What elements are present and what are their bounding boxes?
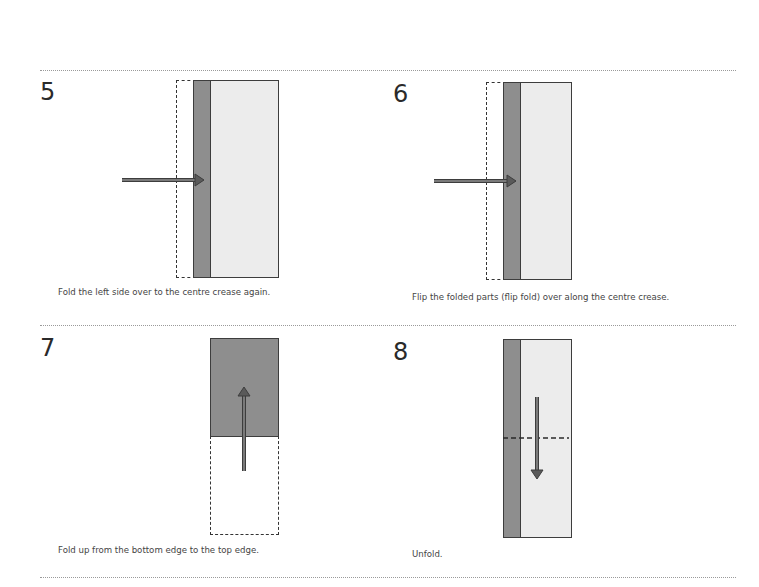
down-arrow-icon xyxy=(0,0,759,587)
step-caption: Unfold. xyxy=(412,549,443,559)
